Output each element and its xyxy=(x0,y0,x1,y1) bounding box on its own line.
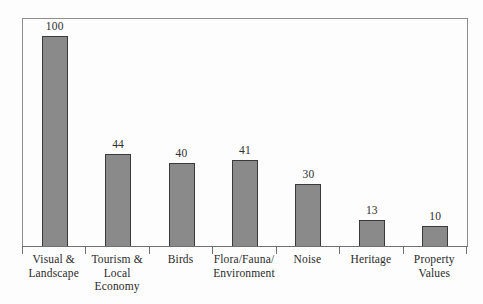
bar[interactable] xyxy=(295,184,321,247)
bar[interactable] xyxy=(232,160,258,247)
bar-group: 40 xyxy=(150,19,213,247)
bar-group: 30 xyxy=(277,19,340,247)
category-label: Tourism & Local Economy xyxy=(85,253,148,294)
bar-value-label: 41 xyxy=(239,144,251,156)
bar-value-label: 40 xyxy=(176,147,188,159)
bar-chart-figure: 100444041301310 Visual & LandscapeTouris… xyxy=(0,0,483,304)
bar[interactable] xyxy=(169,163,195,247)
category-label: Heritage xyxy=(339,253,402,267)
bar-group: 10 xyxy=(404,19,467,247)
category-label: Visual & Landscape xyxy=(22,253,85,280)
bar-group: 13 xyxy=(340,19,403,247)
bar[interactable] xyxy=(422,226,448,247)
category-label: Noise xyxy=(276,253,339,267)
bar-group: 44 xyxy=(86,19,149,247)
category-label: Property Values xyxy=(403,253,466,280)
bar-group: 100 xyxy=(23,19,86,247)
bar-value-label: 100 xyxy=(46,20,64,32)
bars-layer: 100444041301310 xyxy=(23,19,467,247)
category-label: Birds xyxy=(149,253,212,267)
bar[interactable] xyxy=(105,154,131,247)
bar-value-label: 13 xyxy=(366,204,378,216)
bar[interactable] xyxy=(359,220,385,247)
bar-value-label: 30 xyxy=(302,168,314,180)
bar-value-label: 10 xyxy=(429,210,441,222)
bar-value-label: 44 xyxy=(112,138,124,150)
x-axis-line xyxy=(22,246,468,247)
bar[interactable] xyxy=(42,36,68,247)
category-label: Flora/Fauna/ Environment xyxy=(212,253,275,280)
x-axis-category-labels: Visual & LandscapeTourism & Local Econom… xyxy=(22,253,468,304)
plot-area: 100444041301310 xyxy=(23,19,467,247)
bar-group: 41 xyxy=(213,19,276,247)
